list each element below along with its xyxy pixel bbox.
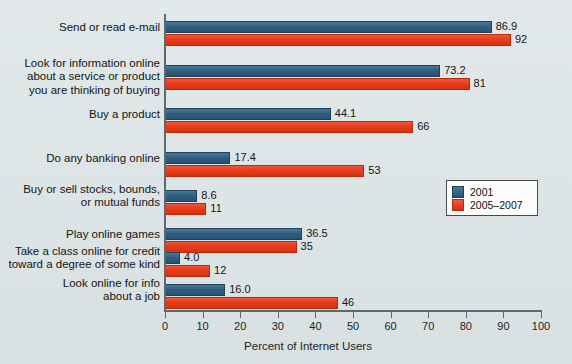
category-label: Do any banking online — [0, 152, 160, 165]
x-tick — [353, 312, 354, 318]
legend-label-2005-2007: 2005–2007 — [470, 199, 523, 211]
bar-2005-2007 — [165, 297, 338, 309]
x-tick — [503, 312, 504, 318]
bar-2005-2007 — [165, 34, 511, 46]
category-label: Play online games — [0, 228, 160, 241]
bar-2001 — [165, 190, 197, 202]
legend: 2001 2005–2007 — [446, 180, 538, 216]
bar-value-label: 12 — [214, 264, 226, 276]
bar-2005-2007 — [165, 121, 413, 133]
category-label: Take a class online for credit toward a … — [0, 245, 160, 272]
x-tick — [391, 312, 392, 318]
bar-value-label: 16.0 — [229, 283, 250, 295]
bar-value-label: 17.4 — [234, 151, 255, 163]
x-tick-label: 80 — [460, 320, 472, 332]
bar-2001 — [165, 284, 225, 296]
x-tick — [240, 312, 241, 318]
legend-swatch-icon-2001 — [452, 186, 464, 198]
x-tick — [466, 312, 467, 318]
bar-value-label: 92 — [515, 33, 527, 45]
x-tick — [428, 312, 429, 318]
x-tick-label: 20 — [234, 320, 246, 332]
bar-value-label: 66 — [417, 120, 429, 132]
category-label: Buy or sell stocks, bounds, or mutual fu… — [0, 183, 160, 210]
bar-value-label: 46 — [342, 296, 354, 308]
bar-value-label: 4.0 — [184, 251, 199, 263]
bar-2001 — [165, 65, 440, 77]
bar-value-label: 8.6 — [201, 189, 216, 201]
x-tick — [278, 312, 279, 318]
x-tick-label: 50 — [347, 320, 359, 332]
bar-2001 — [165, 21, 492, 33]
bar-chart: Send or read e-mailLook for information … — [0, 0, 572, 364]
x-axis-title: Percent of Internet Users — [0, 340, 572, 352]
bar-2005-2007 — [165, 265, 210, 277]
x-tick — [203, 312, 204, 318]
bar-2001 — [165, 152, 230, 164]
bar-2005-2007 — [165, 78, 470, 90]
x-tick-label: 60 — [384, 320, 396, 332]
x-tick — [165, 312, 166, 318]
category-label: Send or read e-mail — [0, 21, 160, 34]
bar-value-label: 53 — [368, 164, 380, 176]
category-label: Look for information online about a serv… — [0, 57, 160, 97]
bar-value-label: 44.1 — [335, 107, 356, 119]
x-tick-label: 30 — [272, 320, 284, 332]
x-tick — [541, 312, 542, 318]
category-label: Buy a product — [0, 108, 160, 121]
bar-value-label: 36.5 — [306, 227, 327, 239]
bar-2005-2007 — [165, 165, 364, 177]
bar-2001 — [165, 252, 180, 264]
legend-item-2001[interactable]: 2001 — [452, 185, 532, 198]
legend-item-2005-2007[interactable]: 2005–2007 — [452, 198, 532, 211]
bar-2001 — [165, 228, 302, 240]
x-tick-label: 40 — [309, 320, 321, 332]
x-tick — [315, 312, 316, 318]
x-tick-label: 90 — [497, 320, 509, 332]
bar-value-label: 35 — [301, 240, 313, 252]
x-tick-label: 0 — [162, 320, 168, 332]
x-tick-label: 100 — [532, 320, 550, 332]
x-tick-label: 70 — [422, 320, 434, 332]
x-tick-label: 10 — [196, 320, 208, 332]
bar-value-label: 73.2 — [444, 64, 465, 76]
bar-2005-2007 — [165, 203, 206, 215]
legend-swatch-icon-2005-2007 — [452, 199, 464, 211]
category-label: Look online for info about a job — [0, 277, 160, 304]
legend-label-2001: 2001 — [470, 186, 493, 198]
bar-value-label: 86.9 — [496, 20, 517, 32]
bar-2001 — [165, 108, 331, 120]
y-axis-line — [164, 14, 166, 311]
bar-value-label: 11 — [210, 202, 221, 214]
bar-value-label: 81 — [474, 77, 486, 89]
